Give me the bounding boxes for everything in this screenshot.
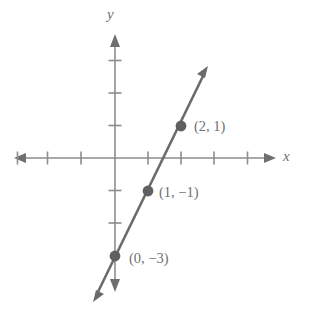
x-axis-arrow-left-icon [14, 153, 26, 163]
point-label-2-1: (2, 1) [194, 119, 225, 134]
data-point-0-minus3 [110, 251, 121, 262]
x-axis [14, 152, 276, 165]
y-axis-arrow-up-icon [110, 34, 120, 47]
y-axis-label: y [107, 7, 114, 22]
point-label-1-minus1: (1, −1) [159, 185, 199, 200]
coordinate-plane-svg [0, 0, 309, 326]
plotted-line-arrow-up-right-icon [197, 66, 208, 78]
x-axis-arrow-right-icon [264, 153, 276, 163]
y-axis-arrow-down-icon [110, 279, 120, 292]
data-point-2-1 [176, 121, 187, 132]
graph-figure: y x (2, 1) (1, −1) (0, −3) [0, 0, 309, 326]
plotted-line-arrow-down-left-icon [93, 290, 104, 302]
x-axis-label: x [283, 149, 290, 164]
data-point-1-minus1 [143, 186, 154, 197]
point-label-0-minus3: (0, −3) [129, 251, 169, 266]
